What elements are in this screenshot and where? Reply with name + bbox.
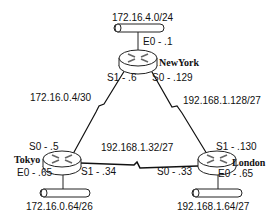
topology-drawing bbox=[0, 0, 280, 222]
ny-tokyo-network-label: 172.16.0.4/30 bbox=[30, 92, 91, 103]
ny-london-network-label: 192.168.1.128/27 bbox=[183, 95, 261, 106]
london-s1-label: S1 - .130 bbox=[216, 141, 257, 152]
tokyo-s1-label: S1 - .34 bbox=[81, 166, 116, 177]
tokyo-router-name: Tokyo bbox=[14, 154, 40, 165]
newyork-s1-label: S1 - .6 bbox=[107, 72, 136, 83]
tokyo-london-network-label: 192.168.1.32/27 bbox=[101, 142, 173, 153]
tokyo-e0-label: E0 - .65 bbox=[17, 167, 52, 178]
london-s0-label: S0 - .33 bbox=[157, 166, 192, 177]
london-lan-label: 192.168.1.64/27 bbox=[177, 201, 249, 212]
newyork-s0-label: S0 - .129 bbox=[152, 72, 193, 83]
tokyo-s0-label: S0 - .5 bbox=[29, 141, 58, 152]
newyork-lan-label: 172.16.4.0/24 bbox=[112, 12, 173, 23]
london-router-name: London bbox=[232, 157, 265, 168]
london-lan-segment bbox=[192, 189, 242, 197]
london-e0-label: E0 - .65 bbox=[218, 168, 253, 179]
newyork-router-icon bbox=[119, 50, 157, 74]
newyork-lan-segment bbox=[114, 24, 164, 32]
newyork-e0-label: E0 - .1 bbox=[143, 36, 172, 47]
newyork-router-name: NewYork bbox=[159, 57, 199, 68]
tokyo-lan-segment bbox=[40, 189, 90, 197]
tokyo-lan-label: 172.16.0.64/26 bbox=[26, 201, 93, 212]
